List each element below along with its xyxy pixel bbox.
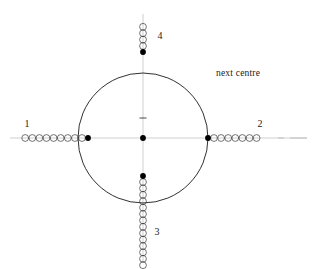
arm-label-4: 4: [157, 31, 162, 41]
arm-3-bottom-chain: [140, 179, 147, 269]
arm-label-2: 2: [257, 119, 262, 129]
filled-dots-group: [85, 49, 211, 179]
open-circle-chains-group: [22, 23, 260, 268]
left-dot: [85, 135, 91, 141]
next-centre-label: next centre: [216, 69, 260, 79]
bottom-dot: [140, 173, 146, 179]
arm-3-bottom-open-circle: [140, 262, 147, 269]
centre-dot: [140, 135, 146, 141]
arm-label-1: 1: [24, 119, 29, 129]
top-dot: [140, 49, 146, 55]
right-dot: [205, 135, 211, 141]
diagram-canvas: 1 2 3 4 next centre: [0, 0, 317, 269]
arm-label-3: 3: [154, 227, 159, 237]
axis-lines-group: [10, 14, 307, 262]
